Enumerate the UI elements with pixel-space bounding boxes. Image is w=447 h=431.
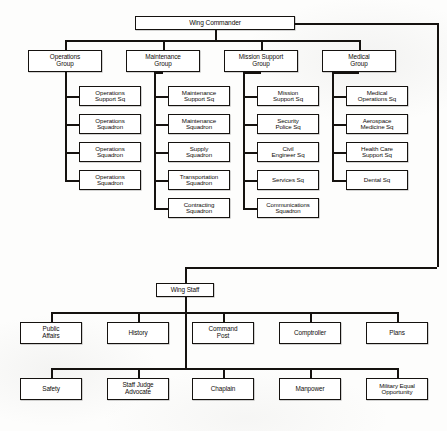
node-label: Operations Squadron xyxy=(95,146,124,159)
node-label: Communications Squadron xyxy=(266,202,309,214)
connector-wc-right xyxy=(295,23,437,25)
node-maintenance-group: Maintenance Group xyxy=(126,50,200,72)
connector-staff-row1-0 xyxy=(51,312,53,322)
connector-stub-med-2 xyxy=(332,152,346,154)
node-comptroller: Comptroller xyxy=(279,322,341,344)
node-public-affairs: Public Affairs xyxy=(20,322,82,344)
connector-stub-ms-1 xyxy=(243,124,257,126)
node-label: Wing Commander xyxy=(189,20,241,27)
connector-staff-row1-2 xyxy=(223,312,225,322)
node-label: Aerospace Medicine Sq xyxy=(361,118,394,131)
node-label: Dental Sq xyxy=(364,177,390,183)
node-med-sq-2: Aerospace Medicine Sq xyxy=(346,114,408,134)
connector-stub-mx-2 xyxy=(154,152,168,154)
node-mx-sq-1: Maintenance Support Sq xyxy=(168,86,230,106)
node-label: Wing Staff xyxy=(171,287,199,294)
connector-staff-spine xyxy=(185,297,187,368)
node-label: Operations Group xyxy=(50,54,80,67)
node-label: Contracting Squadron xyxy=(184,202,215,215)
node-label: Mission Support Group xyxy=(239,54,283,67)
node-ops-sq-1: Operations Support Sq xyxy=(79,86,141,106)
node-label: Operations Support Sq xyxy=(95,90,125,103)
node-label: Operations Squadron xyxy=(95,174,124,187)
node-label: Civil Engineer Sq xyxy=(272,146,305,159)
connector-spine-ms xyxy=(243,72,245,208)
connector-stub-ms-2 xyxy=(243,152,257,154)
connector-group-0 xyxy=(65,40,67,50)
connector-staff-row2-0 xyxy=(51,368,53,378)
connector-staff-row2-2 xyxy=(223,368,225,378)
connector-staff-row1-1 xyxy=(138,312,140,322)
connector-rail-to-wingstaff xyxy=(185,267,437,269)
node-staff-judge: Staff Judge Advocate xyxy=(107,378,169,400)
connector-spine-top-mx xyxy=(154,72,163,74)
node-label: Chaplain xyxy=(211,386,235,393)
connector-stub-med-3 xyxy=(332,180,346,182)
node-history: History xyxy=(107,322,169,344)
node-ms-sq-2: Security Police Sq xyxy=(257,114,319,134)
node-label: Medical Group xyxy=(348,54,369,67)
node-label: Plans xyxy=(389,330,405,337)
node-wing-staff: Wing Staff xyxy=(156,283,214,297)
node-command-post: Command Post xyxy=(192,322,254,344)
node-plans: Plans xyxy=(366,322,428,344)
connector-stub-ops-1 xyxy=(65,124,79,126)
node-label: Transportation Squadron xyxy=(180,174,218,187)
connector-group-bus xyxy=(65,40,359,42)
node-label: Services Sq xyxy=(272,177,304,183)
connector-stub-mx-4 xyxy=(154,208,168,210)
node-med-sq-3: Health Care Support Sq xyxy=(346,142,408,162)
connector-group-2 xyxy=(261,40,263,50)
connector-stub-med-1 xyxy=(332,124,346,126)
node-label: Maintenance Squadron xyxy=(182,118,216,131)
connector-spine-top-med xyxy=(332,72,359,74)
connector-stub-ops-3 xyxy=(65,180,79,182)
node-label: Maintenance Group xyxy=(145,54,181,67)
connector-group-3 xyxy=(359,40,361,50)
connector-stub-ms-0 xyxy=(243,96,257,98)
node-medical-group: Medical Group xyxy=(322,50,396,72)
connector-stub-med-0 xyxy=(332,96,346,98)
connector-stub-ms-4 xyxy=(243,208,257,210)
node-mx-sq-3: Supply Squadron xyxy=(168,142,230,162)
connector-staff-row2-4 xyxy=(397,368,399,378)
org-chart: Wing CommanderOperations GroupMaintenanc… xyxy=(0,0,447,431)
connector-spine-top-ms xyxy=(243,72,261,74)
connector-stub-ops-0 xyxy=(65,96,79,98)
node-label: Safety xyxy=(42,386,60,393)
connector-spine-med xyxy=(332,72,334,180)
node-ms-sq-4: Services Sq xyxy=(257,170,319,190)
connector-wingstaff-down xyxy=(185,267,187,283)
node-mission-support-group: Mission Support Group xyxy=(224,50,298,72)
node-label: Mission Support Sq xyxy=(273,90,303,103)
connector-stub-ops-2 xyxy=(65,152,79,154)
node-label: Supply Squadron xyxy=(186,146,212,159)
node-wing-commander: Wing Commander xyxy=(135,16,295,30)
node-ops-sq-3: Operations Squadron xyxy=(79,142,141,162)
connector-spine-mx xyxy=(154,72,156,208)
node-label: Security Police Sq xyxy=(275,118,300,131)
node-label: Command Post xyxy=(209,326,238,339)
connector-stub-ms-3 xyxy=(243,180,257,182)
node-label: Military Equal Opportunity xyxy=(379,383,415,396)
connector-staff-row2-1 xyxy=(138,368,140,378)
node-military-equal-opp: Military Equal Opportunity xyxy=(366,378,428,400)
node-ops-sq-4: Operations Squadron xyxy=(79,170,141,190)
node-ms-sq-1: Mission Support Sq xyxy=(257,86,319,106)
node-mx-sq-2: Maintenance Squadron xyxy=(168,114,230,134)
node-label: Manpower xyxy=(295,386,324,393)
node-med-sq-4: Dental Sq xyxy=(346,170,408,190)
connector-staff-row1-4 xyxy=(397,312,399,322)
node-label: Health Care Support Sq xyxy=(361,146,393,159)
node-label: Medical Operations Sq xyxy=(358,90,396,103)
connector-wc-down xyxy=(215,30,217,40)
connector-stub-mx-3 xyxy=(154,180,168,182)
connector-group-1 xyxy=(163,40,165,50)
node-mx-sq-4: Transportation Squadron xyxy=(168,170,230,190)
node-mx-sq-5: Contracting Squadron xyxy=(168,198,230,218)
node-ops-sq-2: Operations Squadron xyxy=(79,114,141,134)
node-operations-group: Operations Group xyxy=(28,50,102,72)
node-label: History xyxy=(128,330,147,337)
connector-spine-ops xyxy=(65,72,67,180)
connector-stub-mx-1 xyxy=(154,124,168,126)
